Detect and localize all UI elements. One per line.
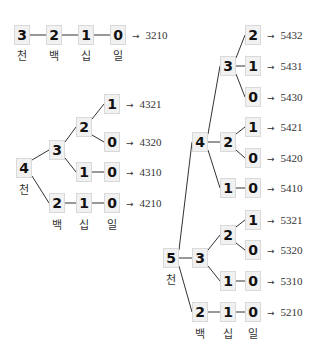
place-value-label: 십	[79, 216, 89, 232]
result-value: 4210	[140, 197, 162, 209]
digit-card: 1	[245, 210, 261, 230]
edge-line	[236, 127, 245, 134]
digit-card: 0	[104, 132, 120, 152]
result-value: 4321	[140, 98, 162, 110]
edge-line	[65, 158, 76, 172]
result-number: →4210	[126, 197, 162, 209]
result-number: →4310	[126, 166, 162, 178]
result-number: →5420	[267, 152, 303, 164]
edge-line	[208, 235, 220, 250]
place-value-label: 십	[81, 47, 91, 63]
place-value-label: 백	[195, 325, 205, 341]
arrow-right-icon: →	[267, 62, 275, 72]
edge-line	[236, 35, 245, 58]
digit-card: 2	[220, 132, 236, 152]
edge-line	[208, 150, 220, 188]
result-number: →4321	[126, 98, 162, 110]
digit-card: 2	[49, 193, 65, 213]
digit-card: 3	[192, 248, 208, 268]
digit-card: 4	[16, 158, 32, 178]
result-number: →5421	[267, 121, 303, 133]
result-number: →3210	[132, 29, 168, 41]
digit-card: 3	[14, 25, 30, 45]
edge-line	[236, 150, 245, 158]
digit-card: 1	[245, 117, 261, 137]
arrow-right-icon: →	[267, 123, 275, 133]
edge-line	[179, 266, 192, 312]
digit-card: 1	[220, 178, 236, 198]
edge-line	[32, 176, 49, 203]
digit-card: 1	[78, 25, 94, 45]
result-value: 4310	[140, 166, 162, 178]
result-value: 4320	[140, 136, 162, 148]
edge-line	[179, 142, 192, 250]
place-value-label: 일	[113, 47, 123, 63]
permutation-tree-diagram: 3210432101021054321021010321010210천백십일천백…	[0, 0, 321, 359]
result-value: 3210	[146, 29, 168, 41]
arrow-right-icon: →	[267, 246, 275, 256]
digit-card: 2	[76, 117, 92, 137]
digit-card: 1	[76, 162, 92, 182]
result-value: 5420	[281, 152, 303, 164]
place-value-label: 천	[19, 181, 29, 197]
arrow-right-icon: →	[267, 154, 275, 164]
arrow-right-icon: →	[132, 31, 140, 41]
digit-card: 0	[245, 148, 261, 168]
digit-card: 3	[220, 56, 236, 76]
digit-card: 0	[245, 178, 261, 198]
result-number: →5210	[267, 306, 303, 318]
result-number: →5310	[267, 275, 303, 287]
edge-line	[92, 104, 104, 119]
place-value-label: 일	[107, 216, 117, 232]
digit-card: 0	[104, 162, 120, 182]
arrow-right-icon: →	[267, 216, 275, 226]
result-value: 5320	[281, 244, 303, 256]
edge-line	[236, 220, 245, 227]
place-value-label: 백	[49, 47, 59, 63]
digit-card: 1	[104, 94, 120, 114]
digit-card: 0	[245, 271, 261, 291]
digit-card: 3	[49, 140, 65, 160]
edge-line	[32, 150, 49, 160]
arrow-right-icon: →	[267, 308, 275, 318]
arrow-right-icon: →	[126, 138, 134, 148]
result-number: →5410	[267, 182, 303, 194]
place-value-label: 천	[166, 271, 176, 287]
edge-line	[236, 243, 245, 250]
digit-card: 2	[245, 25, 261, 45]
edge-line	[92, 135, 104, 142]
digit-card: 2	[192, 302, 208, 322]
digit-card: 1	[220, 302, 236, 322]
arrow-right-icon: →	[267, 93, 275, 103]
place-value-label: 천	[17, 47, 27, 63]
result-number: →5431	[267, 60, 303, 72]
digit-card: 0	[245, 240, 261, 260]
arrow-right-icon: →	[126, 199, 134, 209]
edge-line	[65, 127, 76, 142]
digit-card: 1	[76, 193, 92, 213]
edge-line	[208, 266, 220, 281]
arrow-right-icon: →	[126, 168, 134, 178]
result-value: 5421	[281, 121, 303, 133]
arrow-right-icon: →	[126, 100, 134, 110]
arrow-right-icon: →	[267, 277, 275, 287]
digit-card: 0	[245, 302, 261, 322]
edge-line	[236, 74, 245, 97]
digit-card: 2	[46, 25, 62, 45]
result-value: 5430	[281, 91, 303, 103]
arrow-right-icon: →	[267, 31, 275, 41]
result-value: 5210	[281, 306, 303, 318]
result-number: →4320	[126, 136, 162, 148]
place-value-label: 백	[52, 216, 62, 232]
result-number: →5430	[267, 91, 303, 103]
result-value: 5310	[281, 275, 303, 287]
digit-card: 1	[220, 271, 236, 291]
arrow-right-icon: →	[267, 184, 275, 194]
edge-line	[208, 66, 220, 134]
digit-card: 0	[245, 87, 261, 107]
digit-card: 4	[192, 132, 208, 152]
digit-card: 2	[220, 225, 236, 245]
place-value-label: 일	[248, 325, 258, 341]
digit-card: 1	[245, 56, 261, 76]
result-value: 5410	[281, 182, 303, 194]
